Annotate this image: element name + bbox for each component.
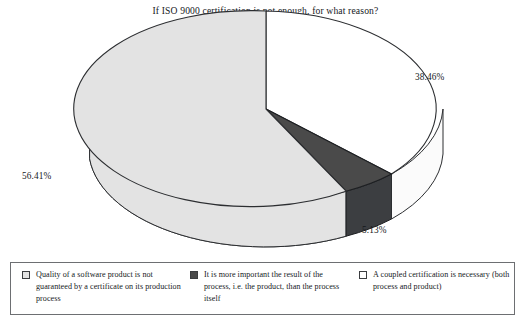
- legend-label-quality: Quality of a software product is not gua…: [36, 269, 189, 306]
- legend-swatch-white-icon: [359, 271, 367, 279]
- legend-swatch-light-gray-icon: [22, 271, 30, 279]
- legend-item-coupled-certification[interactable]: A coupled certification is necessary (bo…: [351, 269, 511, 293]
- legend-label-result-of-process: It is more important the result of the p…: [204, 269, 351, 306]
- legend-label-coupled-certification: A coupled certification is necessary (bo…: [373, 269, 511, 293]
- legend-item-result-of-process[interactable]: It is more important the result of the p…: [189, 269, 351, 306]
- pie-label-light-gray-56: 56.41%: [22, 171, 51, 181]
- legend-swatch-dark-gray-icon: [190, 271, 198, 279]
- chart-legend: Quality of a software product is not gua…: [10, 262, 515, 315]
- legend-entries: Quality of a software product is not gua…: [11, 263, 514, 314]
- pie-label-white-38: 38.46%: [415, 72, 444, 82]
- chart-figure: If ISO 9000 certification is not enough,…: [0, 0, 531, 331]
- pie-label-dark-gray-5: 5.13%: [362, 225, 387, 235]
- legend-item-quality[interactable]: Quality of a software product is not gua…: [11, 269, 189, 306]
